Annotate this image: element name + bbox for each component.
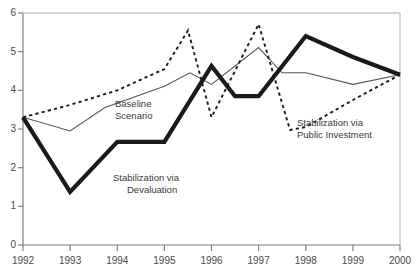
annotation-devaluation-line2: Devaluation xyxy=(113,184,179,196)
y-tick-label-3: 3 xyxy=(0,123,16,134)
x-tick-label-2000: 2000 xyxy=(377,255,420,266)
annotation-baseline-line2: Scenario xyxy=(115,110,153,122)
y-tick-label-0: 0 xyxy=(0,239,16,250)
y-tick-label-1: 1 xyxy=(0,200,16,211)
x-tick-label-1994: 1994 xyxy=(94,255,140,266)
annotation-stabilization-public-investment: Stabilization via Public Investment xyxy=(297,117,372,140)
line-chart: 6 5 4 3 2 1 0 1992 1993 1994 1995 1996 1… xyxy=(0,0,420,277)
annotation-public-investment-line1: Stabilization via xyxy=(297,117,372,129)
x-tick-label-1993: 1993 xyxy=(47,255,93,266)
y-tick-label-4: 4 xyxy=(0,84,16,95)
y-tick-label-6: 6 xyxy=(0,7,16,18)
annotation-devaluation-line1: Stabilization via xyxy=(113,172,179,184)
x-tick-marks xyxy=(23,245,400,251)
x-tick-label-1992: 1992 xyxy=(0,255,46,266)
x-tick-label-1998: 1998 xyxy=(283,255,329,266)
annotation-baseline-line1: Baseline xyxy=(115,98,153,110)
annotation-stabilization-devaluation: Stabilization via Devaluation xyxy=(113,172,179,195)
x-tick-label-1996: 1996 xyxy=(189,255,235,266)
annotation-baseline-scenario: Baseline Scenario xyxy=(115,98,153,121)
x-tick-label-1999: 1999 xyxy=(330,255,376,266)
annotation-public-investment-line2: Public Investment xyxy=(297,129,372,141)
y-tick-label-2: 2 xyxy=(0,162,16,173)
x-tick-label-1995: 1995 xyxy=(141,255,187,266)
y-tick-label-5: 5 xyxy=(0,46,16,57)
series-stabilization-public-investment xyxy=(23,24,400,130)
y-tick-marks xyxy=(18,13,23,245)
x-tick-label-1997: 1997 xyxy=(236,255,282,266)
